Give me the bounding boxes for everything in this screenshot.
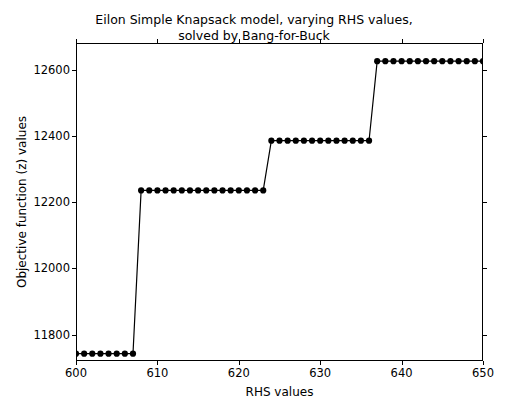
data-point-marker — [187, 187, 193, 193]
data-point-marker — [293, 138, 299, 144]
data-point-marker — [317, 138, 323, 144]
data-point-marker — [407, 58, 413, 64]
data-point-marker — [390, 58, 396, 64]
data-point-marker — [154, 187, 160, 193]
y-tick-label: 12600 — [33, 63, 70, 77]
plot-series-svg — [76, 43, 483, 361]
x-axis-label: RHS values — [76, 385, 483, 399]
data-point-marker — [366, 138, 372, 144]
x-tick-mark — [320, 39, 321, 43]
data-point-marker — [472, 58, 478, 64]
data-point-marker — [276, 138, 282, 144]
data-point-marker — [382, 58, 388, 64]
data-point-marker — [342, 138, 348, 144]
data-point-marker — [195, 187, 201, 193]
data-point-marker — [301, 138, 307, 144]
y-tick-label: 12200 — [33, 195, 70, 209]
data-point-marker — [285, 138, 291, 144]
x-tick-mark — [483, 39, 484, 43]
data-point-marker — [76, 351, 79, 357]
y-tick-mark — [72, 335, 76, 336]
data-point-marker — [464, 58, 470, 64]
data-point-marker — [122, 351, 128, 357]
x-tick-mark — [239, 361, 240, 365]
data-point-marker — [146, 187, 152, 193]
data-point-marker — [455, 58, 461, 64]
x-tick-label: 620 — [228, 366, 250, 380]
x-tick-mark — [402, 39, 403, 43]
y-tick-mark — [72, 268, 76, 269]
data-point-marker — [97, 351, 103, 357]
data-point-marker — [138, 187, 144, 193]
plot-area: 1180012000122001240012600600610620630640… — [76, 43, 483, 361]
x-tick-label: 640 — [391, 366, 413, 380]
series-line — [76, 61, 483, 353]
x-tick-mark — [320, 361, 321, 365]
y-tick-mark — [72, 70, 76, 71]
data-point-marker — [236, 187, 242, 193]
data-point-marker — [211, 187, 217, 193]
data-point-marker — [203, 187, 209, 193]
x-tick-mark — [157, 361, 158, 365]
y-tick-mark — [72, 136, 76, 137]
figure-canvas: Eilon Simple Knapsack model, varying RHS… — [0, 0, 508, 406]
data-point-marker — [325, 138, 331, 144]
data-point-marker — [447, 58, 453, 64]
data-point-marker — [358, 138, 364, 144]
data-point-marker — [228, 187, 234, 193]
data-point-marker — [114, 351, 120, 357]
y-tick-label: 11800 — [33, 328, 70, 342]
x-tick-mark — [157, 39, 158, 43]
data-point-marker — [439, 58, 445, 64]
data-point-marker — [252, 187, 258, 193]
data-point-marker — [309, 138, 315, 144]
y-tick-mark — [483, 202, 487, 203]
y-tick-mark — [72, 202, 76, 203]
x-tick-label: 650 — [472, 366, 494, 380]
y-tick-mark — [483, 136, 487, 137]
data-point-marker — [423, 58, 429, 64]
data-point-marker — [130, 351, 136, 357]
data-point-marker — [81, 351, 87, 357]
y-tick-mark — [483, 335, 487, 336]
data-point-marker — [350, 138, 356, 144]
x-tick-mark — [76, 39, 77, 43]
data-point-marker — [244, 187, 250, 193]
data-point-marker — [162, 187, 168, 193]
x-tick-mark — [76, 361, 77, 365]
data-point-marker — [260, 187, 266, 193]
data-point-marker — [171, 187, 177, 193]
y-axis-label: Objective function (z) values — [15, 62, 29, 342]
data-point-marker — [374, 58, 380, 64]
x-tick-label: 600 — [65, 366, 87, 380]
y-tick-label: 12000 — [33, 261, 70, 275]
x-tick-label: 630 — [309, 366, 331, 380]
data-point-marker — [480, 58, 483, 64]
data-point-marker — [399, 58, 405, 64]
data-point-marker — [431, 58, 437, 64]
y-tick-label: 12400 — [33, 129, 70, 143]
data-point-marker — [268, 138, 274, 144]
data-point-marker — [219, 187, 225, 193]
x-tick-label: 610 — [146, 366, 168, 380]
data-point-marker — [179, 187, 185, 193]
x-tick-mark — [402, 361, 403, 365]
data-point-marker — [105, 351, 111, 357]
x-tick-mark — [483, 361, 484, 365]
data-point-marker — [89, 351, 95, 357]
x-tick-mark — [239, 39, 240, 43]
data-point-marker — [333, 138, 339, 144]
data-point-marker — [415, 58, 421, 64]
y-tick-mark — [483, 268, 487, 269]
y-tick-mark — [483, 70, 487, 71]
